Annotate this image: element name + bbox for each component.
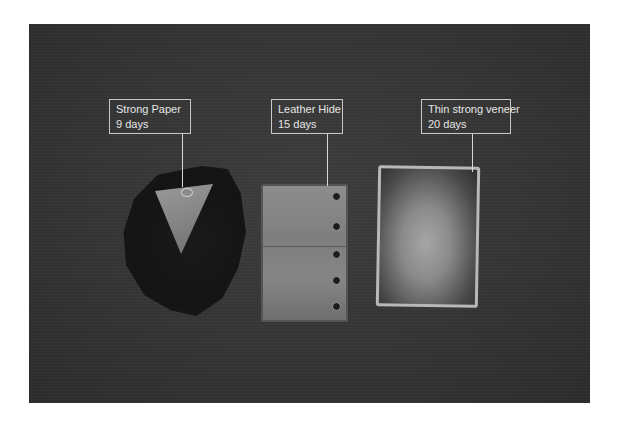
thin-veneer-sample xyxy=(376,165,480,308)
leather-hide-sample xyxy=(261,184,348,322)
rivet xyxy=(332,250,341,259)
callout-title: Thin strong veneer xyxy=(428,102,504,117)
leader-line-strong-paper xyxy=(182,134,183,187)
callout-duration: 15 days xyxy=(278,117,336,132)
strong-paper-sample xyxy=(121,166,251,316)
callout-strong-paper: Strong Paper 9 days xyxy=(109,99,191,134)
paper-hole xyxy=(181,188,193,197)
leather-seam xyxy=(263,246,346,247)
rivet xyxy=(332,222,341,231)
sample-photo: Strong Paper 9 days Leather Hide 15 days… xyxy=(29,24,590,403)
leader-line-thin-veneer xyxy=(472,134,473,172)
callout-title: Strong Paper xyxy=(116,102,184,117)
rivet xyxy=(332,276,341,285)
callout-duration: 20 days xyxy=(428,117,504,132)
callout-duration: 9 days xyxy=(116,117,184,132)
callout-title: Leather Hide xyxy=(278,102,336,117)
callout-thin-veneer: Thin strong veneer 20 days xyxy=(421,99,511,134)
rivet xyxy=(332,192,341,201)
callout-leather-hide: Leather Hide 15 days xyxy=(271,99,343,134)
leader-line-leather-hide xyxy=(327,134,328,186)
rivet xyxy=(332,302,341,311)
